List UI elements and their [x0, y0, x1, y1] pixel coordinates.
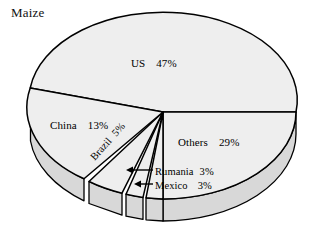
- pie-chart-graphic: [0, 0, 312, 239]
- slice-pct-mexico: 3%: [198, 180, 212, 191]
- slice-pct-rumania: 3%: [200, 166, 214, 177]
- slice-label-china: China13%: [50, 119, 108, 131]
- slice-name-mexico: Mexico: [155, 180, 188, 191]
- slice-label-others: Others29%: [178, 136, 239, 148]
- slice-name-us: US: [131, 57, 145, 69]
- slice-pct-china: 13%: [88, 119, 108, 131]
- side-wall-rumania: [126, 194, 143, 219]
- slice-name-rumania: Rumania: [155, 166, 194, 177]
- slice-pct-us: 47%: [156, 57, 176, 69]
- slice-label-rumania: Rumania3%: [155, 166, 214, 177]
- slice-name-china: China: [50, 119, 77, 131]
- slice-pct-others: 29%: [219, 136, 239, 148]
- pie-chart-figure: Maize: [0, 0, 312, 239]
- slice-label-mexico: Mexico3%: [155, 180, 212, 191]
- side-wall-mexico: [146, 198, 163, 221]
- slice-label-us: US47%: [131, 57, 177, 69]
- slice-name-others: Others: [178, 136, 208, 148]
